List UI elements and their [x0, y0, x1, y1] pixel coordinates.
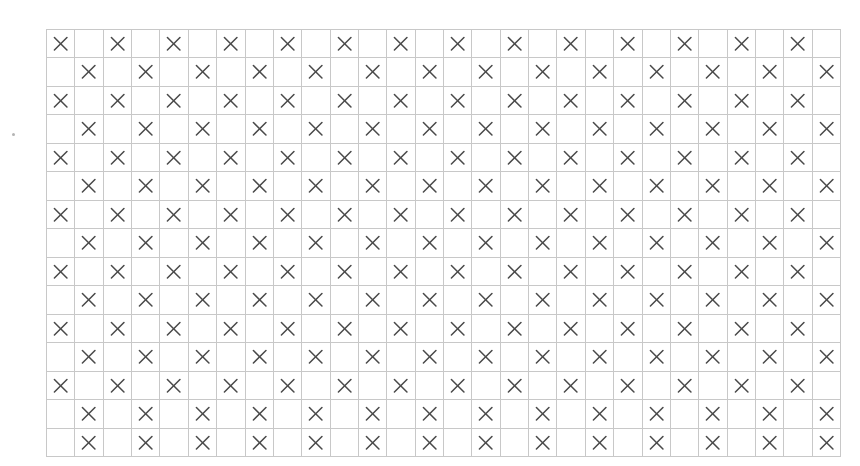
cell-empty[interactable]: [302, 86, 330, 114]
cell-x-mark[interactable]: [415, 400, 443, 428]
cell-x-mark[interactable]: [755, 286, 783, 314]
cell-x-mark[interactable]: [75, 115, 103, 143]
cell-x-mark[interactable]: [47, 30, 75, 58]
cell-x-mark[interactable]: [812, 58, 840, 86]
cell-dark[interactable]: [330, 229, 358, 257]
cell-x-mark[interactable]: [188, 343, 216, 371]
cell-empty[interactable]: [585, 200, 613, 228]
cell-x-mark[interactable]: [444, 30, 472, 58]
cell-dark[interactable]: [358, 371, 386, 399]
cell-x-mark[interactable]: [358, 400, 386, 428]
cell-x-mark[interactable]: [670, 30, 698, 58]
cell-dark[interactable]: [217, 286, 245, 314]
cell-empty[interactable]: [358, 86, 386, 114]
cell-x-mark[interactable]: [387, 257, 415, 285]
cell-x-mark[interactable]: [75, 172, 103, 200]
cell-empty[interactable]: [188, 30, 216, 58]
cell-empty[interactable]: [358, 314, 386, 342]
cell-dark[interactable]: [727, 428, 755, 456]
cell-empty[interactable]: [75, 257, 103, 285]
cell-empty[interactable]: [47, 400, 75, 428]
cell-x-mark[interactable]: [415, 229, 443, 257]
cell-x-mark[interactable]: [330, 314, 358, 342]
cell-x-mark[interactable]: [415, 115, 443, 143]
cell-x-mark[interactable]: [302, 428, 330, 456]
cell-empty[interactable]: [217, 400, 245, 428]
cell-x-mark[interactable]: [387, 371, 415, 399]
cell-x-mark[interactable]: [273, 257, 301, 285]
cell-dark[interactable]: [387, 172, 415, 200]
cell-x-mark[interactable]: [642, 286, 670, 314]
cell-empty[interactable]: [132, 314, 160, 342]
cell-x-mark[interactable]: [500, 257, 528, 285]
cell-x-mark[interactable]: [585, 428, 613, 456]
cell-x-mark[interactable]: [784, 371, 812, 399]
cell-empty[interactable]: [302, 30, 330, 58]
cell-x-mark[interactable]: [727, 257, 755, 285]
cell-x-mark[interactable]: [699, 58, 727, 86]
cell-empty[interactable]: [132, 143, 160, 171]
cell-x-mark[interactable]: [642, 400, 670, 428]
cell-empty[interactable]: [699, 30, 727, 58]
cell-x-mark[interactable]: [103, 86, 131, 114]
cell-x-mark[interactable]: [557, 86, 585, 114]
cell-empty[interactable]: [670, 400, 698, 428]
cell-empty[interactable]: [75, 314, 103, 342]
cell-x-mark[interactable]: [529, 115, 557, 143]
cell-x-mark[interactable]: [132, 115, 160, 143]
cell-empty[interactable]: [444, 172, 472, 200]
cell-empty[interactable]: [358, 200, 386, 228]
cell-dark[interactable]: [273, 343, 301, 371]
cell-dark[interactable]: [699, 257, 727, 285]
cell-empty[interactable]: [160, 172, 188, 200]
cell-empty[interactable]: [273, 58, 301, 86]
cell-empty[interactable]: [727, 115, 755, 143]
cell-x-mark[interactable]: [812, 343, 840, 371]
cell-dark[interactable]: [160, 343, 188, 371]
cell-x-mark[interactable]: [387, 314, 415, 342]
cell-empty[interactable]: [529, 314, 557, 342]
cell-empty[interactable]: [103, 115, 131, 143]
cell-empty[interactable]: [444, 428, 472, 456]
cell-empty[interactable]: [755, 371, 783, 399]
cell-x-mark[interactable]: [245, 343, 273, 371]
cell-empty[interactable]: [585, 257, 613, 285]
cell-x-mark[interactable]: [358, 229, 386, 257]
cell-x-mark[interactable]: [642, 172, 670, 200]
cell-empty[interactable]: [160, 286, 188, 314]
cell-empty[interactable]: [415, 143, 443, 171]
cell-empty[interactable]: [387, 343, 415, 371]
cell-empty[interactable]: [160, 58, 188, 86]
cell-x-mark[interactable]: [642, 229, 670, 257]
cell-x-mark[interactable]: [699, 343, 727, 371]
cell-dark[interactable]: [103, 400, 131, 428]
cell-x-mark[interactable]: [273, 30, 301, 58]
cell-x-mark[interactable]: [755, 428, 783, 456]
cell-x-mark[interactable]: [557, 371, 585, 399]
cell-empty[interactable]: [330, 286, 358, 314]
cell-x-mark[interactable]: [217, 143, 245, 171]
cell-dark[interactable]: [387, 400, 415, 428]
cell-x-mark[interactable]: [784, 200, 812, 228]
cell-empty[interactable]: [472, 314, 500, 342]
cell-x-mark[interactable]: [529, 58, 557, 86]
cell-empty[interactable]: [415, 257, 443, 285]
cell-dark[interactable]: [670, 343, 698, 371]
cell-empty[interactable]: [132, 30, 160, 58]
cell-x-mark[interactable]: [784, 86, 812, 114]
cell-empty[interactable]: [75, 143, 103, 171]
cell-dark[interactable]: [500, 400, 528, 428]
cell-dark[interactable]: [614, 229, 642, 257]
cell-dark[interactable]: [273, 286, 301, 314]
cell-x-mark[interactable]: [444, 86, 472, 114]
cell-x-mark[interactable]: [784, 143, 812, 171]
cell-x-mark[interactable]: [670, 257, 698, 285]
cell-dark[interactable]: [529, 86, 557, 114]
cell-empty[interactable]: [784, 58, 812, 86]
cell-empty[interactable]: [273, 115, 301, 143]
cell-x-mark[interactable]: [302, 115, 330, 143]
cell-empty[interactable]: [784, 172, 812, 200]
cell-empty[interactable]: [103, 286, 131, 314]
cell-empty[interactable]: [529, 371, 557, 399]
cell-x-mark[interactable]: [585, 58, 613, 86]
